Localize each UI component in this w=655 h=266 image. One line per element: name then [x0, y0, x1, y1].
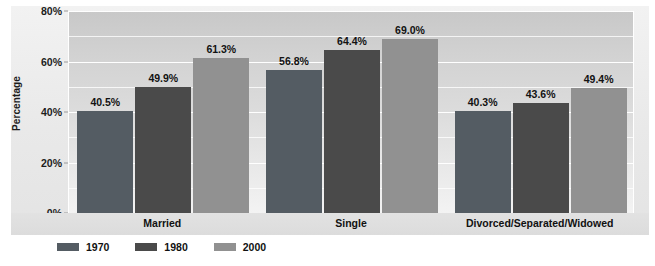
bar-2000-0[interactable] — [193, 58, 249, 213]
y-axis-tick-label: 20% — [18, 157, 62, 169]
legend-item-1970[interactable]: 1970 — [57, 241, 109, 253]
bar-1980-0[interactable] — [135, 87, 191, 213]
legend-swatch-icon — [57, 243, 79, 251]
legend-item-1980[interactable]: 1980 — [135, 241, 187, 253]
x-axis-category-label: Divorced/Separated/Widowed — [430, 217, 650, 229]
chart-legend: 197019802000 — [57, 241, 266, 253]
y-axis-tick-label: 80% — [18, 5, 62, 17]
bar-value-label: 49.4% — [565, 73, 633, 85]
bar-1970-2[interactable] — [455, 111, 511, 213]
bar-2000-1[interactable] — [382, 39, 438, 213]
bar-value-label: 69.0% — [376, 24, 444, 36]
legend-label: 1980 — [164, 241, 187, 253]
bar-value-label: 49.9% — [129, 72, 197, 84]
plot-area: 40.5%49.9%61.3%56.8%64.4%69.0%40.3%43.6%… — [68, 11, 634, 213]
bar-1980-1[interactable] — [324, 50, 380, 213]
y-axis-tick-label: 40% — [18, 106, 62, 118]
bar-value-label: 40.5% — [71, 96, 139, 108]
legend-swatch-icon — [214, 243, 236, 251]
x-axis-band: MarriedSingleDivorced/Separated/Widowed — [11, 213, 649, 235]
bar-value-label: 64.4% — [318, 35, 386, 47]
x-axis-category-label: Single — [241, 217, 461, 229]
bar-1970-1[interactable] — [266, 70, 322, 213]
bar-1970-0[interactable] — [77, 111, 133, 213]
bar-value-label: 43.6% — [507, 88, 575, 100]
bar-value-label: 56.8% — [260, 55, 328, 67]
bar-chart: Percentage 0%20%40%60%80% 40.5%49.9%61.3… — [0, 0, 655, 266]
legend-swatch-icon — [135, 243, 157, 251]
bar-value-label: 61.3% — [187, 43, 255, 55]
legend-label: 2000 — [243, 241, 266, 253]
y-axis-tick-label: 60% — [18, 56, 62, 68]
bars-layer: 40.5%49.9%61.3%56.8%64.4%69.0%40.3%43.6%… — [69, 11, 633, 213]
legend-item-2000[interactable]: 2000 — [214, 241, 266, 253]
bar-1980-2[interactable] — [513, 103, 569, 213]
x-axis-category-label: Married — [52, 217, 272, 229]
bar-2000-2[interactable] — [571, 88, 627, 213]
legend-label: 1970 — [86, 241, 109, 253]
